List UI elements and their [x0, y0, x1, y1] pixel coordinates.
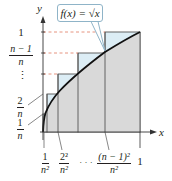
x-tick-1-over-n-squared: 1 n²	[37, 152, 53, 175]
x-tick-1: 1	[136, 156, 144, 167]
y-tick-1-over-n: 1 n	[14, 118, 26, 141]
x-axis-arrow-icon	[150, 130, 157, 135]
x-axis-label: x	[159, 127, 164, 138]
function-label: f(x) = √x	[60, 7, 99, 19]
y-tick-2-over-n: 2 n	[14, 96, 26, 119]
x-tick-n-minus-1-sq-over-n-squared: (n − 1)² n²	[96, 152, 132, 175]
callout-pointer	[91, 22, 105, 52]
function-callout: f(x) = √x	[57, 4, 103, 22]
y-axis-arrow-icon	[41, 16, 46, 23]
y-axis-label: y	[37, 3, 42, 14]
x-tick-2sq-over-n-squared: 2² n²	[56, 152, 72, 175]
y-tick-1: 1	[16, 27, 26, 38]
y-tick-ellipsis: ⋮	[17, 70, 25, 81]
y-tick-n-minus-1-over-n: n − 1 n	[8, 44, 34, 67]
x-tick-ellipsis: · · ·	[76, 158, 96, 167]
